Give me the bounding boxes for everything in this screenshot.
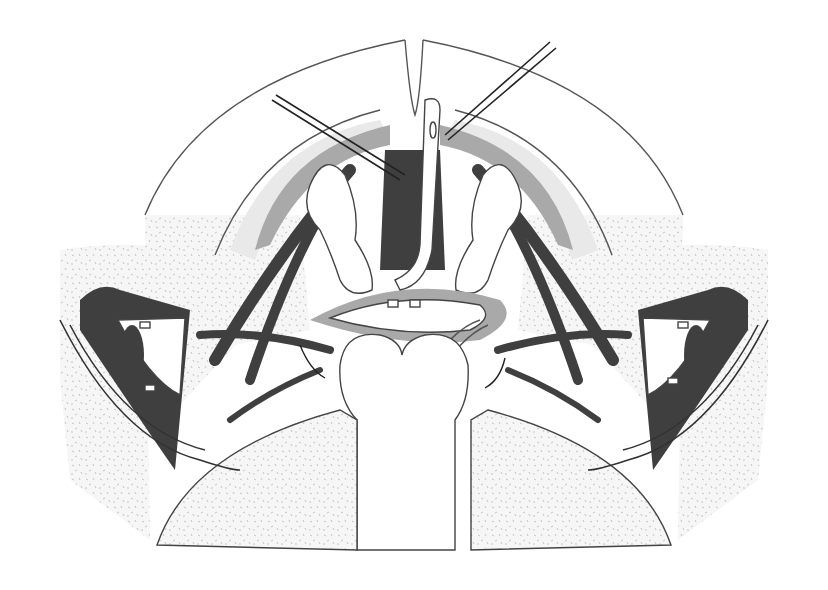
surgical-illustration: [0, 0, 828, 590]
thigh-right: [471, 410, 671, 550]
heart-shaped-tissue: [340, 334, 468, 550]
illustration-stage: [0, 0, 828, 590]
thigh-left: [157, 410, 357, 550]
